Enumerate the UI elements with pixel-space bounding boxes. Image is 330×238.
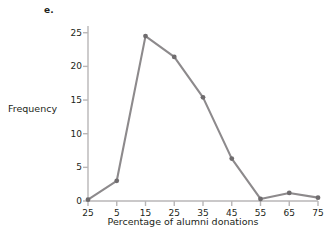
- x-tick-marks: [88, 201, 318, 206]
- data-point-marker: [316, 195, 321, 200]
- chart-canvas: [0, 0, 330, 238]
- x-axis-title: Percentage of alumni donations: [0, 217, 330, 227]
- frequency-polygon-figure: e. Frequency 0510152025 2551525354555657…: [0, 0, 330, 238]
- data-point-marker: [143, 34, 148, 39]
- data-point-marker: [258, 197, 263, 202]
- y-tick-label: 10: [62, 129, 82, 138]
- y-tick-label: 15: [62, 96, 82, 105]
- y-tick-label: 0: [62, 197, 82, 206]
- data-point-marker: [172, 55, 177, 60]
- y-tick-label: 20: [62, 62, 82, 71]
- data-point-marker: [114, 178, 119, 183]
- y-tick-label: 5: [62, 163, 82, 172]
- data-point-marker: [287, 191, 292, 196]
- plot-area: 0510152025 25515253545556575: [0, 0, 330, 238]
- data-point-marker: [229, 156, 234, 161]
- data-point-markers: [86, 34, 321, 202]
- y-tick-label: 25: [62, 28, 82, 37]
- data-point-marker: [86, 197, 91, 202]
- y-tick-marks: [83, 33, 88, 201]
- data-series-line: [88, 36, 318, 200]
- data-point-marker: [201, 95, 206, 100]
